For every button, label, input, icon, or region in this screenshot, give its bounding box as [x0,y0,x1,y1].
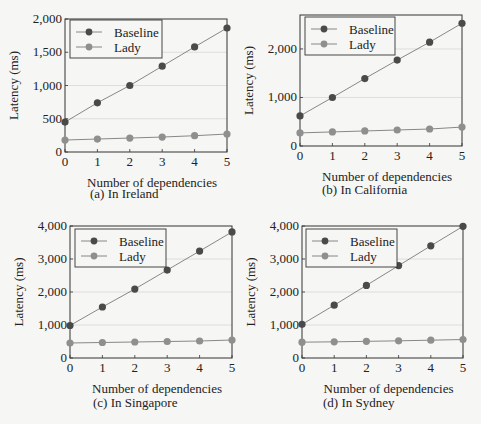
legend-label: Lady [349,37,376,52]
legend-marker [91,238,98,245]
x-tick-label: 4 [426,148,433,163]
series-lady [66,336,235,346]
legend-marker [321,41,328,48]
data-point [394,126,401,133]
chart-d: 01,0002,0003,0004,000012345Number of dep… [240,212,481,424]
x-tick-label: 2 [362,148,369,163]
caption-b: (b) In California [322,182,407,198]
chart-b: 01,0002,000012345Number of dependenciesL… [240,0,481,212]
data-point [164,338,171,345]
legend-marker [322,238,329,245]
x-tick-label: 4 [428,360,435,375]
series-lady [296,123,465,136]
data-point [196,337,203,344]
x-tick-label: 5 [459,148,466,163]
data-point [126,134,133,141]
data-point [228,228,235,235]
x-tick-label: 5 [229,360,236,375]
y-axis: 05001,0001,5002,000 [33,11,68,159]
legend: BaselineLady [70,20,162,58]
y-tick-label: 2,000 [268,41,297,56]
series-lady [298,336,466,346]
data-point [363,282,370,289]
grid-lines [300,49,462,98]
legend: BaselineLady [75,229,166,267]
legend-label: Baseline [350,234,395,249]
data-point [223,24,230,31]
x-tick-label: 0 [299,360,306,375]
y-tick-label: 3,000 [38,251,67,266]
y-tick-label: 4,000 [38,218,67,233]
x-tick-label: 1 [94,154,101,169]
x-tick-label: 3 [164,360,171,375]
caption-a: (a) In Ireland [90,186,159,202]
caption-d: (d) In Sydney [323,395,395,411]
legend-label: Baseline [349,22,394,37]
x-tick-label: 1 [331,360,338,375]
data-point [329,94,336,101]
x-tick-label: 1 [329,148,336,163]
data-point [99,339,106,346]
y-tick-label: 2,000 [38,284,67,299]
legend-marker [86,29,93,36]
data-point [196,247,203,254]
y-tick-label: 2,000 [33,11,62,26]
data-point [191,43,198,50]
x-tick-label: 4 [191,154,198,169]
y-tick-label: 1,000 [38,317,67,332]
legend-label: Lady [119,249,146,264]
data-point [94,99,101,106]
data-point [66,322,73,329]
x-tick-label: 2 [127,154,134,169]
data-point [459,336,466,343]
x-tick-label: 3 [159,154,166,169]
x-tick-label: 3 [394,148,401,163]
y-tick-label: 4,000 [270,218,299,233]
data-point [191,132,198,139]
legend-marker [91,253,98,260]
legend-marker [322,253,329,260]
y-tick-label: 2,000 [270,284,299,299]
data-point [131,338,138,345]
x-tick-label: 3 [395,360,402,375]
x-tick-label: 2 [132,360,139,375]
y-axis-label: Latency (ms) [6,51,21,120]
data-point [131,285,138,292]
data-point [427,242,434,249]
legend-label: Lady [350,249,377,264]
x-tick-label: 0 [67,360,74,375]
chart-a: 05001,0001,5002,000012345Number of depen… [0,0,240,212]
data-point [223,130,230,137]
data-point [426,39,433,46]
data-point [126,82,133,89]
x-tick-label: 0 [62,154,69,169]
x-tick-label: 4 [196,360,203,375]
data-point [228,336,235,343]
data-point [363,338,370,345]
data-point [331,338,338,345]
y-tick-label: 1,500 [33,44,62,59]
data-point [427,337,434,344]
data-point [361,127,368,134]
data-point [159,63,166,70]
data-point [329,128,336,135]
chart-panel-d: 01,0002,0003,0004,000012345Number of dep… [240,212,481,424]
data-point [159,133,166,140]
data-point [458,123,465,130]
data-point [331,302,338,309]
y-axis-label: Latency (ms) [241,46,256,115]
data-point [298,339,305,346]
legend: BaselineLady [305,17,395,55]
legend: BaselineLady [306,229,397,267]
legend-label: Baseline [119,234,164,249]
chart-panel-a: 05001,0001,5002,000012345Number of depen… [0,0,240,212]
data-point [99,303,106,310]
data-point [394,57,401,64]
y-axis-label: Latency (ms) [243,258,258,327]
caption-c: (c) In Singapore [93,395,177,411]
grid-lines [70,259,232,325]
legend-marker [321,26,328,33]
y-tick-label: 1,000 [268,89,297,104]
grid-lines [65,52,227,119]
y-tick-label: 1,000 [33,78,62,93]
